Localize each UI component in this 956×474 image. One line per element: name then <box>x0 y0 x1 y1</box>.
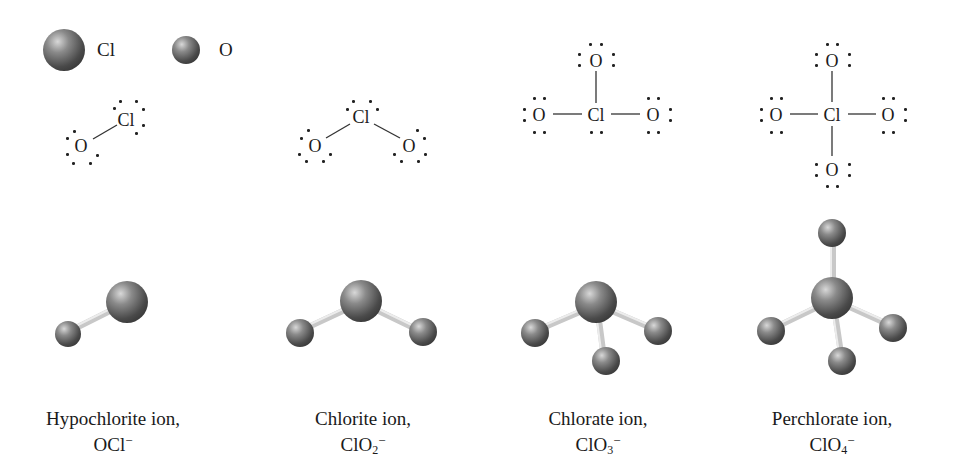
o-atom-sphere-icon <box>818 219 846 247</box>
lewis-atom-o: O <box>403 137 416 155</box>
caption-chlorate: Chlorate ion, ClO3− <box>548 408 647 461</box>
legend-o-sphere-icon <box>172 36 200 64</box>
o-atom-sphere-icon <box>521 319 549 347</box>
caption-formula: ClO4− <box>772 430 892 461</box>
legend-cl-label: Cl <box>97 40 115 59</box>
o-atom-sphere-icon <box>55 321 81 347</box>
caption-name: Perchlorate ion, <box>772 408 892 430</box>
lewis-atom-cl: Cl <box>823 106 840 124</box>
o-atom-sphere-icon <box>879 314 907 342</box>
caption-name: Chlorate ion, <box>548 408 647 430</box>
lewis-atom-o-right: O <box>647 106 660 124</box>
lewis-atom-o: O <box>75 137 88 155</box>
o-atom-sphere-icon <box>644 317 672 345</box>
caption-name: Hypochlorite ion, <box>46 408 180 430</box>
cl-atom-sphere-icon <box>811 277 853 319</box>
cl-atom-sphere-icon <box>340 280 382 322</box>
caption-chlorite: Chlorite ion, ClO2− <box>315 408 411 461</box>
cl-atom-sphere-icon <box>575 281 617 323</box>
lewis-atom-o-top: O <box>590 52 603 70</box>
diagram-canvas <box>0 0 956 474</box>
lewis-atom-cl: Cl <box>352 108 369 126</box>
lewis-atom-o-left: O <box>533 106 546 124</box>
caption-formula: ClO3− <box>548 430 647 461</box>
caption-perchlorate: Perchlorate ion, ClO4− <box>772 408 892 461</box>
caption-formula: ClO2− <box>315 430 411 461</box>
lewis-atom-o-top: O <box>826 52 839 70</box>
legend-cl-sphere-icon <box>43 29 85 71</box>
caption-hypochlorite: Hypochlorite ion, OCl− <box>46 408 180 461</box>
lewis-atom-o-left: O <box>770 106 783 124</box>
model-perchlorate <box>757 219 907 375</box>
cl-atom-sphere-icon <box>106 281 148 323</box>
lewis-atom-o: O <box>309 137 322 155</box>
lewis-bonds <box>93 71 876 156</box>
lewis-atom-cl: Cl <box>587 106 604 124</box>
o-atom-sphere-icon <box>286 319 314 347</box>
o-atom-sphere-icon <box>409 318 437 346</box>
o-atom-sphere-icon <box>828 347 856 375</box>
lewis-atom-o-right: O <box>882 106 895 124</box>
caption-formula: OCl− <box>46 430 180 461</box>
model-chlorate <box>521 281 672 375</box>
o-atom-sphere-icon <box>592 347 620 375</box>
legend-o-label: O <box>219 40 233 59</box>
o-atom-sphere-icon <box>757 317 785 345</box>
caption-name: Chlorite ion, <box>315 408 411 430</box>
lewis-atom-o-bottom: O <box>826 161 839 179</box>
model-chlorite <box>286 280 437 347</box>
lewis-atom-cl: Cl <box>117 111 134 129</box>
